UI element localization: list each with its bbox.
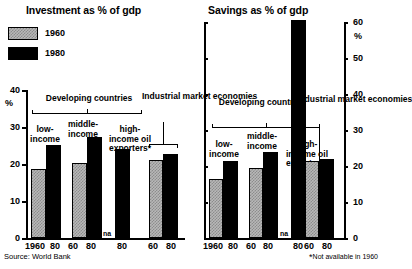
- frame-left-savings-tick-20: [204, 166, 208, 168]
- y-tick-savings-50: [344, 58, 348, 60]
- y-tick-40: [22, 90, 26, 92]
- y-tick-label-savings-50: 50: [353, 53, 363, 63]
- bar-savings-low-income-1960: [209, 179, 223, 238]
- y-axis-unit-savings: %: [354, 31, 362, 41]
- x-label-savings-60b: 60: [246, 241, 256, 251]
- x-label-savings-60d: 60: [304, 241, 314, 251]
- y-tick-label-10: 10: [2, 196, 20, 206]
- na-label-savings: na: [280, 230, 288, 237]
- bar-investment-industrial-1960: [149, 160, 163, 238]
- footnote-note: *Not available in 1960: [309, 252, 378, 262]
- frame-left-savings-tick-50: [204, 58, 208, 60]
- x-label-savings-80b: 80: [263, 241, 273, 251]
- y-tick-savings-20: [344, 166, 348, 168]
- y-tick-label-savings-30: 30: [353, 125, 363, 135]
- source-note: Source: World Bank: [4, 252, 71, 261]
- y-tick-savings-30: [344, 130, 348, 132]
- brace-industrial-left-tick-b: [177, 144, 178, 148]
- y-tick-10: [22, 201, 26, 203]
- y-tick-label-savings-10: 10: [353, 197, 363, 207]
- y-tick-label-savings-60: 60: [353, 17, 363, 27]
- y-tick-savings-10: [344, 202, 348, 204]
- x-label-savings-80a: 80: [228, 241, 238, 251]
- group-label-high-income-oil-left: high-income oilexporters*: [102, 125, 158, 154]
- brace-developing-right-apex: [266, 123, 267, 128]
- group-label-low-income-left: low-income: [28, 125, 62, 144]
- x-label-savings-80c: 80: [293, 241, 303, 251]
- brace-developing-left-tick-b: [141, 110, 142, 114]
- y-tick-20: [22, 164, 26, 166]
- y-tick-label-20: 20: [2, 159, 20, 169]
- x-label-investment-60d: 60: [148, 241, 158, 251]
- x-axis-investment: [26, 238, 185, 240]
- x-label-investment-80b: 80: [86, 241, 96, 251]
- y-tick-label-savings-20: 20: [353, 161, 363, 171]
- bar-savings-high-income-oil-1980: [291, 20, 306, 238]
- brace-industrial-left-stem: [163, 122, 164, 144]
- x-label-savings-1960: 1960: [203, 241, 223, 251]
- bar-investment-industrial-1980: [163, 154, 178, 238]
- y-axis-unit-investment: %: [5, 98, 13, 108]
- x-label-investment-80a: 80: [50, 241, 60, 251]
- bar-investment-high-income-oil-1980: [115, 149, 130, 238]
- bar-investment-low-income-1960: [31, 169, 46, 238]
- brace-developing-left-apex: [87, 109, 88, 114]
- chart-panel-savings: 60 % 50 40 30 20 10 0 Developing countri…: [191, 0, 382, 269]
- brace-developing-left-tick-a: [32, 110, 33, 114]
- section-label-industrial-left: Industrial market economies: [142, 92, 190, 102]
- group-label-low-income-right: low-income: [207, 140, 241, 159]
- x-label-investment-80d: 80: [166, 241, 176, 251]
- footnote-text: Not available in 1960: [313, 253, 378, 260]
- chart-panel-investment: 40 % 30 20 10 0 Developing countries Ind…: [0, 0, 191, 269]
- bar-savings-middle-income-1980: [263, 152, 278, 238]
- x-label-investment-80c: 80: [117, 241, 127, 251]
- brace-developing-right-tick-a: [212, 124, 213, 128]
- bar-savings-industrial-1960: [305, 161, 319, 238]
- bar-investment-middle-income-1960: [72, 163, 87, 238]
- bar-investment-low-income-1980: [46, 145, 61, 238]
- section-label-industrial-right-text: Industrial market economies: [297, 94, 412, 104]
- frame-left-savings-tick-40: [204, 94, 208, 96]
- y-tick-label-savings-0: 0: [353, 233, 358, 243]
- y-axis-investment: [26, 90, 28, 240]
- x-label-savings-80d: 80: [322, 241, 332, 251]
- y-tick-30: [22, 127, 26, 129]
- y-tick-savings-60: [344, 22, 348, 24]
- y-tick-label-40: 40: [2, 85, 20, 95]
- bar-savings-middle-income-1960: [249, 168, 263, 238]
- bar-investment-middle-income-1980: [87, 137, 102, 238]
- x-label-investment-1960: 1960: [25, 241, 45, 251]
- y-tick-label-30: 30: [2, 122, 20, 132]
- x-label-investment-60b: 60: [68, 241, 78, 251]
- frame-left-savings-tick-30: [204, 130, 208, 132]
- bar-savings-low-income-1980: [223, 161, 238, 238]
- y-tick-label-0: 0: [2, 233, 20, 243]
- x-axis-savings: [204, 238, 345, 240]
- group-label-middle-income-right: middle-income: [241, 132, 283, 151]
- section-label-developing-left: Developing countries: [34, 94, 144, 104]
- frame-left-savings-tick-top: [204, 22, 208, 24]
- na-label-investment: na: [103, 230, 111, 237]
- frame-left-savings-tick-10: [204, 202, 208, 204]
- bar-savings-industrial-1980: [319, 159, 334, 238]
